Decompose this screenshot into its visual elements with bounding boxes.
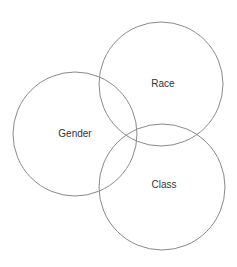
class-label: Class bbox=[151, 179, 176, 190]
race-label: Race bbox=[151, 78, 175, 89]
gender-label: Gender bbox=[58, 128, 92, 139]
set-class: Class bbox=[99, 124, 225, 250]
set-race: Race bbox=[99, 22, 223, 146]
set-gender: Gender bbox=[13, 72, 137, 196]
venn-diagram: Race Gender Class bbox=[0, 0, 237, 267]
